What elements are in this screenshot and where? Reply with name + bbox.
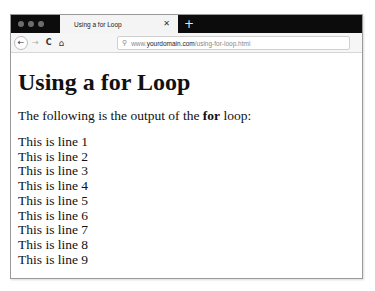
search-icon: ⚲ <box>122 39 127 47</box>
output-line: This is line 9 <box>18 253 362 268</box>
forward-icon[interactable]: → <box>32 38 39 47</box>
url-domain: yourdomain.com <box>147 40 195 47</box>
output-line: This is line 6 <box>18 209 362 224</box>
tab-active[interactable]: Using a for Loop ✕ <box>60 15 178 33</box>
output-line: This is line 7 <box>18 223 362 238</box>
page-content: Using a for Loop The following is the ou… <box>11 68 362 267</box>
browser-window: Using a for Loop ✕ + ← → C ⌂ ⚲ www.yourd… <box>10 14 363 279</box>
home-icon[interactable]: ⌂ <box>59 38 65 48</box>
intro-text-end: loop: <box>220 108 251 123</box>
output-line: This is line 4 <box>18 179 362 194</box>
url-text: www.yourdomain.com/using-for-loop.html <box>131 40 250 47</box>
intro-paragraph: The following is the output of the for l… <box>18 108 362 124</box>
minimize-window-button[interactable] <box>28 21 34 27</box>
output-line: This is line 5 <box>18 194 362 209</box>
window-controls <box>11 15 60 33</box>
output-lines: This is line 1 This is line 2 This is li… <box>18 135 362 267</box>
page-heading: Using a for Loop <box>18 68 362 96</box>
url-prefix: www. <box>131 40 147 47</box>
new-tab-button[interactable]: + <box>178 15 194 33</box>
output-line: This is line 2 <box>18 150 362 165</box>
output-line: This is line 8 <box>18 238 362 253</box>
intro-bold-keyword: for <box>203 108 220 123</box>
back-icon[interactable]: ← <box>14 36 28 50</box>
url-path: /using-for-loop.html <box>195 40 251 47</box>
output-line: This is line 1 <box>18 135 362 150</box>
reload-icon[interactable]: C <box>46 38 52 47</box>
address-bar[interactable]: ⚲ www.yourdomain.com/using-for-loop.html <box>117 36 350 50</box>
output-line: This is line 3 <box>18 164 362 179</box>
tab-bar: Using a for Loop ✕ + <box>11 15 362 33</box>
close-window-button[interactable] <box>18 21 24 27</box>
close-tab-icon[interactable]: ✕ <box>163 20 170 28</box>
intro-text: The following is the output of the <box>18 108 203 123</box>
tab-title: Using a for Loop <box>74 21 122 28</box>
maximize-window-button[interactable] <box>38 21 44 27</box>
